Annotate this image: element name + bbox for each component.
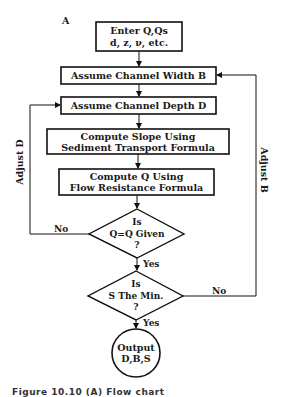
assume-width-box: Assume Channel Width B (61, 67, 216, 84)
width-label: Assume Channel Width B (70, 70, 206, 81)
decision1-line1: Is (132, 217, 141, 227)
decision-q-given: Is Q=Q Given ? (89, 209, 184, 258)
slope-line1: Compute Slope Using (81, 131, 196, 142)
decision1-no-label: No (54, 224, 68, 234)
decision2-line1: Is (131, 279, 140, 289)
decision2-yes-label: Yes (142, 318, 159, 328)
adjust-d-label: Adjust D (14, 139, 25, 186)
compute-q-box: Compute Q Using Flow Resistance Formula (59, 169, 214, 195)
computeq-line1: Compute Q Using (90, 171, 184, 182)
assume-depth-box: Assume Channel Depth D (61, 97, 216, 114)
computeq-line2: Flow Resistance Formula (70, 182, 203, 193)
figure-caption: Figure 10.10 (A) Flow chart (12, 387, 165, 397)
enter-line2: d, z, ν, etc. (110, 37, 168, 49)
decision2-no-label: No (212, 286, 226, 296)
panel-label: A (61, 15, 70, 26)
decision2-line2: S The Min. (109, 291, 164, 301)
decision1-line3: ? (134, 240, 139, 250)
decision-s-min: Is S The Min. ? (88, 271, 183, 320)
enter-input-box: Enter Q,Qs d, z, ν, etc. (96, 22, 182, 51)
adjust-b-label: Adjust B (259, 146, 270, 192)
depth-label: Assume Channel Depth D (70, 100, 207, 111)
decision2-line3: ? (133, 302, 138, 312)
output-line1: Output (117, 342, 155, 353)
decision1-yes-label: Yes (142, 259, 159, 269)
enter-line1: Enter Q,Qs (110, 25, 168, 37)
compute-slope-box: Compute Slope Using Sediment Transport F… (47, 129, 229, 154)
output-terminal: Output D,B,S (112, 329, 160, 377)
slope-line2: Sediment Transport Formula (61, 142, 215, 153)
output-line2: D,B,S (121, 353, 151, 365)
decision1-line2: Q=Q Given (110, 229, 165, 239)
